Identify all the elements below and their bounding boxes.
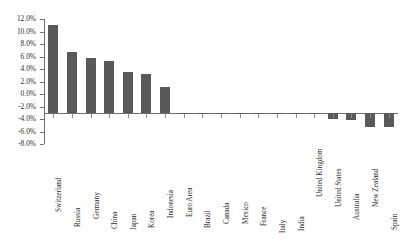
x-axis-tick <box>351 114 352 118</box>
x-axis-tick <box>296 114 297 118</box>
x-axis-tick-label: Indonesia <box>168 190 175 218</box>
x-axis-tick-label: Mexico <box>243 202 250 224</box>
bar <box>123 72 133 113</box>
bar <box>141 74 151 113</box>
y-axis-tick <box>40 144 44 145</box>
bar <box>48 25 58 113</box>
x-axis-tick-label: Spain <box>392 214 399 230</box>
x-axis-tick <box>277 114 278 118</box>
x-axis-tick-label: Germany <box>94 192 101 219</box>
x-axis-tick <box>53 114 54 118</box>
y-axis-tick <box>40 82 44 83</box>
bar-chart: 12.0%10.0%8.0%6.0%4.0%2.0%0.0%-2.0%-4.0%… <box>0 0 402 249</box>
y-axis-tick <box>40 32 44 33</box>
x-axis-tick <box>240 114 241 118</box>
x-axis-tick-label: Brazil <box>205 210 212 228</box>
y-axis-tick <box>40 107 44 108</box>
y-axis-tick <box>40 57 44 58</box>
x-axis-tick-label: Australia <box>354 194 361 220</box>
x-axis-tick <box>370 114 371 118</box>
x-axis-tick <box>165 114 166 118</box>
y-axis-tick <box>40 119 44 120</box>
y-axis-tick <box>40 19 44 20</box>
x-axis-tick <box>333 114 334 118</box>
x-axis-tick-label: China <box>112 212 119 229</box>
y-axis-tick <box>40 94 44 95</box>
bar <box>104 61 114 113</box>
x-axis-tick <box>389 114 390 118</box>
x-axis-tick-label: New Zealand <box>373 168 380 207</box>
x-axis-tick-label: India <box>299 216 306 231</box>
x-axis-tick <box>109 114 110 118</box>
y-axis-tick <box>40 69 44 70</box>
x-axis-tick-label: Russia <box>75 208 82 227</box>
x-axis-tick-label: Japan <box>131 214 138 230</box>
x-axis-tick-label: Korea <box>149 210 156 228</box>
y-axis-line <box>44 19 45 144</box>
x-axis-tick-label: Italy <box>280 220 287 233</box>
x-axis-tick <box>146 114 147 118</box>
x-axis-tick <box>202 114 203 118</box>
bar <box>160 87 170 114</box>
x-axis-tick-label: United Kingdom <box>317 148 324 197</box>
x-axis-tick <box>258 114 259 118</box>
x-axis-tick-label: Switzerland <box>56 178 63 212</box>
x-axis-tick-label: Canada <box>224 202 231 224</box>
bar <box>67 52 77 114</box>
y-axis-tick <box>40 44 44 45</box>
y-axis-tick <box>40 132 44 133</box>
x-axis-tick <box>91 114 92 118</box>
bar <box>86 58 96 113</box>
x-axis-tick-label: United States <box>336 168 343 207</box>
x-axis-tick <box>314 114 315 118</box>
x-axis-tick <box>184 114 185 118</box>
x-axis-tick <box>72 114 73 118</box>
x-axis-tick <box>221 114 222 118</box>
x-axis-tick <box>128 114 129 118</box>
x-axis-tick-label: Euro Area <box>187 188 194 217</box>
x-axis-tick-label: France <box>261 206 268 226</box>
